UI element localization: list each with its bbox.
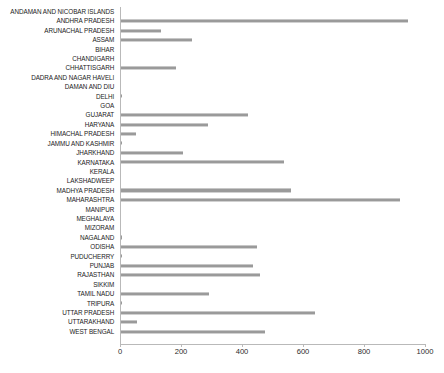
category-label: ARUNACHAL PRADESH	[5, 26, 118, 35]
category-label: GUJARAT	[5, 110, 118, 119]
bar-row: HARYANA	[0, 120, 444, 129]
category-label: DADRA AND NAGAR HAVELI	[5, 73, 118, 82]
bar-row: WEST BENGAL	[0, 327, 444, 336]
bar-row: DELHI	[0, 92, 444, 101]
bar-row: MANIPUR	[0, 205, 444, 214]
bar	[120, 123, 208, 126]
bar-row: CHANDIGARH	[0, 54, 444, 63]
bar-track	[118, 16, 444, 25]
category-label: CHANDIGARH	[5, 54, 118, 63]
bar-track	[118, 242, 444, 251]
bar-track	[118, 299, 444, 308]
bar-track	[118, 73, 444, 82]
bar	[120, 330, 265, 333]
category-label: RAJASTHAN	[5, 270, 118, 279]
bar-row: CHHATTISGARH	[0, 63, 444, 72]
bar-track	[118, 233, 444, 242]
bar-row: ANDHRA PRADESH	[0, 16, 444, 25]
bar-row: UTTAR PRADESH	[0, 308, 444, 317]
bar-row: MIZORAM	[0, 223, 444, 232]
x-tick-label: 400	[236, 347, 249, 356]
category-label: DELHI	[5, 92, 118, 101]
bar-track	[118, 158, 444, 167]
bar-row: TRIPURA	[0, 299, 444, 308]
x-tick-label: 1000	[417, 347, 434, 356]
bar	[120, 29, 161, 32]
bar-row: PUDUCHERRY	[0, 252, 444, 261]
x-axis-ticks: 02004006008001000	[0, 344, 444, 364]
bar-track	[118, 270, 444, 279]
bar	[120, 198, 400, 201]
bar-row: RAJASTHAN	[0, 270, 444, 279]
bar-row: TAMIL NADU	[0, 289, 444, 298]
category-label: KERALA	[5, 167, 118, 176]
bar-row: NAGALAND	[0, 233, 444, 242]
bar-track	[118, 280, 444, 289]
bar-track	[118, 317, 444, 326]
bar	[120, 20, 408, 23]
bar-track	[118, 167, 444, 176]
bar-track	[118, 82, 444, 91]
bar-row: KARNATAKA	[0, 158, 444, 167]
bar-track	[118, 205, 444, 214]
category-label: ODISHA	[5, 242, 118, 251]
category-label: TRIPURA	[5, 299, 118, 308]
category-label: BIHAR	[5, 45, 118, 54]
bar-row: MADHYA PRADESH	[0, 186, 444, 195]
bar-row: SIKKIM	[0, 280, 444, 289]
bar-track	[118, 139, 444, 148]
bar-row: ARUNACHAL PRADESH	[0, 26, 444, 35]
bar-row: ODISHA	[0, 242, 444, 251]
bar	[120, 38, 192, 41]
bar-track	[118, 223, 444, 232]
bar-row: MAHARASHTRA	[0, 195, 444, 204]
bar-row: BIHAR	[0, 45, 444, 54]
bar	[120, 161, 284, 164]
bar-row: GOA	[0, 101, 444, 110]
bar	[120, 189, 291, 192]
bar-track	[118, 129, 444, 138]
bar-track	[118, 92, 444, 101]
category-label: MADHYA PRADESH	[5, 186, 118, 195]
bar-track	[118, 308, 444, 317]
bar	[120, 114, 248, 117]
bar	[120, 321, 137, 324]
bar-rows: ANDAMAN AND NICOBAR ISLANDSANDHRA PRADES…	[0, 7, 444, 336]
bar-row: PUNJAB	[0, 261, 444, 270]
y-axis-line	[120, 7, 121, 344]
category-label: HARYANA	[5, 120, 118, 129]
bar-track	[118, 214, 444, 223]
category-label: UTTARAKHAND	[5, 317, 118, 326]
bar-row: ASSAM	[0, 35, 444, 44]
bar	[120, 245, 257, 248]
category-label: KARNATAKA	[5, 158, 118, 167]
x-tick-label: 600	[297, 347, 310, 356]
bar-track	[118, 120, 444, 129]
category-label: NAGALAND	[5, 233, 118, 242]
bar-track	[118, 252, 444, 261]
category-label: ANDHRA PRADESH	[5, 16, 118, 25]
bar-track	[118, 176, 444, 185]
bar-row: MEGHALAYA	[0, 214, 444, 223]
category-label: DAMAN AND DIU	[5, 82, 118, 91]
category-label: JAMMU AND KASHMIR	[5, 139, 118, 148]
category-label: PUDUCHERRY	[5, 252, 118, 261]
bar-track	[118, 261, 444, 270]
bar-track	[118, 45, 444, 54]
category-label: ANDAMAN AND NICOBAR ISLANDS	[5, 7, 118, 16]
bar-track	[118, 54, 444, 63]
bar-row: HIMACHAL PRADESH	[0, 129, 444, 138]
bar-track	[118, 327, 444, 336]
category-label: MANIPUR	[5, 205, 118, 214]
bar-row: JHARKHAND	[0, 148, 444, 157]
bar	[120, 292, 209, 295]
category-label: WEST BENGAL	[5, 327, 118, 336]
category-label: MAHARASHTRA	[5, 195, 118, 204]
bar	[120, 151, 183, 154]
bar	[120, 311, 315, 314]
bar-row: JAMMU AND KASHMIR	[0, 139, 444, 148]
bar-row: KERALA	[0, 167, 444, 176]
bar-row: DAMAN AND DIU	[0, 82, 444, 91]
x-tick-label: 0	[118, 347, 122, 356]
bar-track	[118, 148, 444, 157]
